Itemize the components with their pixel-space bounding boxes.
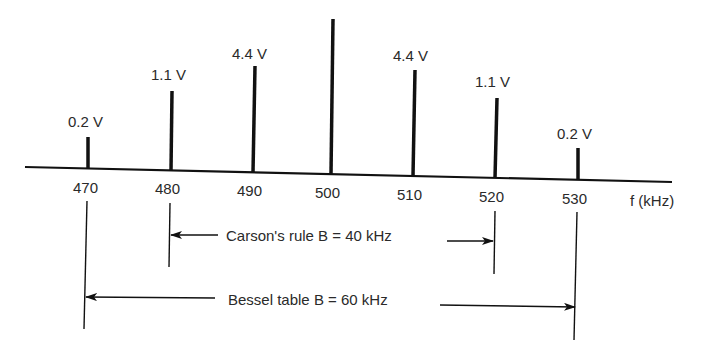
bessel-label: Bessel table B = 60 kHz [228,291,388,308]
axis-label: f (kHz) [630,192,674,209]
fm-spectrum-diagram: 0.2 V 1.1 V 4.4 V 4.4 V 1.1 V 0.2 V 470 … [0,0,703,361]
spectral-line-500 [331,19,333,174]
amplitude-label-490: 4.4 V [232,45,267,62]
carson-label: Carson's rule B = 40 kHz [226,227,392,244]
carson-right-bound [494,211,495,274]
bessel-left-arrow [86,297,215,298]
carson-bandwidth-marker: Carson's rule B = 40 kHz [169,203,495,274]
tick-label-520: 520 [479,188,504,205]
spectral-line-510 [413,70,415,176]
tick-label-530: 530 [562,190,587,207]
amplitude-label-530: 0.2 V [557,125,592,142]
frequency-axis [25,167,672,182]
tick-label-480: 480 [155,180,180,197]
spectral-lines [88,19,578,180]
amplitude-label-470: 0.2 V [68,113,103,130]
tick-label-490: 490 [237,182,262,199]
bessel-right-bound [574,212,577,340]
carson-left-bound [169,203,170,267]
bessel-right-arrow [440,305,575,307]
bessel-bandwidth-marker: Bessel table B = 60 kHz [84,201,577,340]
bessel-left-bound [84,201,87,329]
tick-label-510: 510 [397,186,422,203]
amplitude-label-510: 4.4 V [393,47,428,64]
tick-label-470: 470 [73,179,98,196]
amplitude-label-480: 1.1 V [151,66,186,83]
spectral-line-480 [171,91,172,171]
spectral-line-490 [253,66,255,173]
frequency-tick-labels: 470 480 490 500 510 520 530 f (kHz) [73,179,674,209]
tick-label-500: 500 [315,184,340,201]
spectral-line-520 [495,98,497,178]
amplitude-label-520: 1.1 V [475,73,510,90]
